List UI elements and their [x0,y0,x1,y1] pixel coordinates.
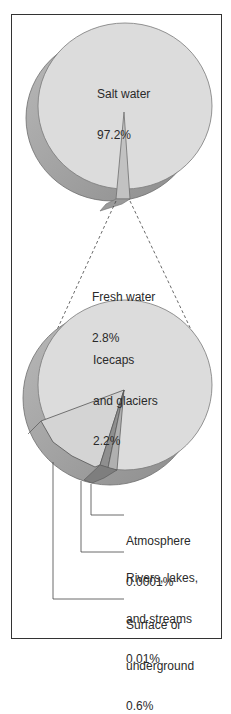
leader-atmosphere [91,484,124,515]
label-salt-water-name: Salt water [97,88,150,102]
label-salt-water-value: 97.2% [97,129,150,143]
label-fresh-water-name: Fresh water [92,291,155,305]
label-salt-water: Salt water 97.2% [97,61,150,156]
label-icecaps-value: 2.2% [93,435,158,449]
label-surface-value: 0.6% [126,700,194,714]
label-icecaps-line2: and glaciers [93,395,158,409]
label-surface-line1: Surface or [126,619,194,633]
label-surface-line2: underground [126,660,194,674]
label-icecaps-line1: Icecaps [93,354,158,368]
label-icecaps: Icecaps and glaciers 2.2% [93,327,158,462]
leader-rivers [81,481,124,552]
label-rivers-line1: Rivers, lakes, [126,572,198,586]
label-surface: Surface or underground 0.6% [126,592,194,714]
